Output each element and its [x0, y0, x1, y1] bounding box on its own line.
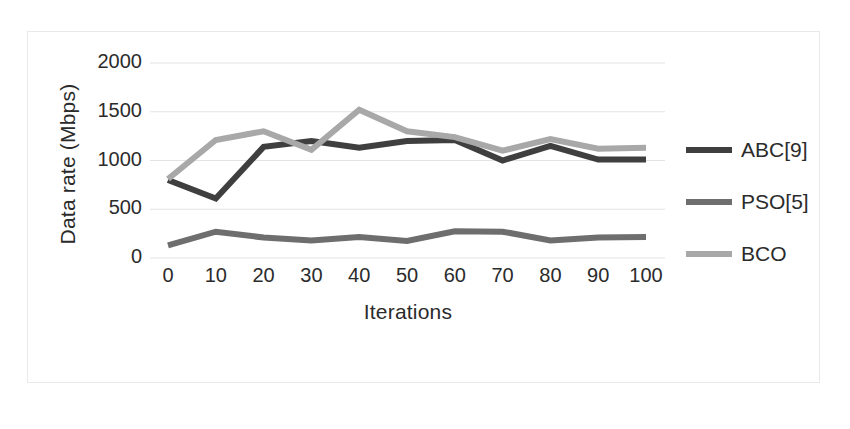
- legend-item-label: PSO[5]: [741, 190, 809, 214]
- series-line-pso-5: [168, 231, 646, 245]
- legend-color-swatch: [686, 199, 732, 205]
- y-tick-label: 1500: [72, 99, 142, 122]
- x-axis-title: Iterations: [168, 300, 648, 324]
- legend-item[interactable]: BCO: [686, 228, 836, 280]
- legend-item[interactable]: ABC[9]: [686, 124, 836, 176]
- legend-item-label: BCO: [741, 242, 787, 266]
- series-lines: [168, 110, 646, 246]
- x-tick-label: 100: [616, 264, 676, 287]
- y-tick-label: 0: [72, 245, 142, 268]
- series-line-abc-9: [168, 140, 646, 199]
- legend-color-swatch: [686, 147, 732, 153]
- y-tick-label: 500: [72, 196, 142, 219]
- chart-legend: ABC[9]PSO[5]BCO: [686, 124, 836, 280]
- legend-color-swatch: [686, 251, 732, 257]
- gridlines: [150, 63, 665, 258]
- legend-item-label: ABC[9]: [741, 138, 808, 162]
- legend-item[interactable]: PSO[5]: [686, 176, 836, 228]
- chart-figure: Data rate (Mbps) Iterations 050010001500…: [0, 0, 850, 429]
- y-tick-label: 1000: [72, 148, 142, 171]
- y-tick-label: 2000: [72, 50, 142, 73]
